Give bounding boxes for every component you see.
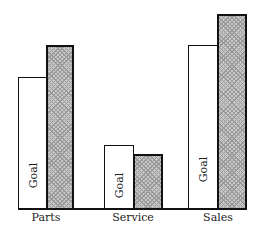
bar-sales-actual (217, 14, 247, 209)
goal-label-parts: Goal (27, 163, 40, 189)
category-label-service: Service (98, 211, 168, 224)
category-label-parts: Parts (11, 211, 81, 224)
bar-sales-goal (188, 45, 218, 209)
category-label-sales: Sales (183, 211, 253, 224)
goal-label-sales: Goal (197, 157, 210, 183)
x-axis-baseline (18, 208, 247, 210)
bar-service-actual (133, 154, 163, 209)
goal-label-service: Goal (113, 173, 126, 199)
bar-parts-goal (18, 77, 47, 209)
bar-parts-actual (46, 45, 74, 209)
